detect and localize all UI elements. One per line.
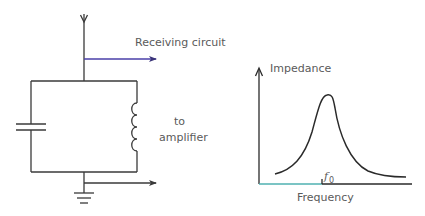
- receiving-circuit-label: Receiving circuit: [135, 36, 226, 49]
- ground-icon: [74, 193, 94, 203]
- tuned-circuit: Receiving circuit to amplifier: [16, 14, 226, 203]
- inductor-icon: [132, 103, 137, 151]
- antenna-icon: [81, 14, 88, 81]
- to-label: to: [174, 115, 185, 128]
- x-axis-label: Frequency: [297, 191, 354, 204]
- impedance-curve: [275, 95, 406, 177]
- capacitor-icon: [16, 124, 46, 130]
- amplifier-label: amplifier: [159, 131, 208, 144]
- resonance-graph: Impedance Frequency f 0: [256, 62, 413, 204]
- diagram-canvas: Receiving circuit to amplifier Impedance…: [0, 0, 425, 216]
- f0-subscript: 0: [329, 176, 334, 185]
- lc-tank-wires: [31, 81, 137, 172]
- y-axis-label: Impedance: [270, 62, 331, 75]
